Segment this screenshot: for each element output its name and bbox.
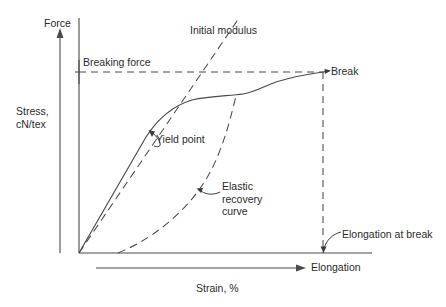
elastic-recovery-curve	[118, 96, 236, 253]
elongation-at-break-leader	[321, 232, 342, 253]
annotation-break: Break	[331, 65, 358, 78]
stress-strain-diagram: Force Stress, cN/tex Breaking force Init…	[0, 0, 446, 307]
elongation-axis-arrow	[96, 265, 306, 272]
annotation-elongation-at-break: Elongation at break	[342, 228, 432, 241]
annotation-yield-point: Yield point	[156, 133, 205, 146]
diagram-canvas	[0, 0, 446, 307]
break-leader	[323, 69, 331, 74]
axis-label-elongation: Elongation	[311, 261, 361, 274]
stress-strain-curve	[79, 72, 323, 253]
elastic-recovery-leader	[197, 188, 221, 194]
annotation-elastic-recovery-curve: Elastic recovery curve	[222, 180, 262, 218]
axis-label-stress: Stress, cN/tex	[16, 105, 49, 130]
annotation-breaking-force: Breaking force	[83, 56, 151, 69]
axis-label-force: Force	[44, 17, 71, 30]
annotation-initial-modulus: Initial modulus	[190, 24, 257, 37]
axis-label-strain: Strain, %	[196, 282, 239, 295]
force-axis-arrow	[57, 28, 64, 253]
